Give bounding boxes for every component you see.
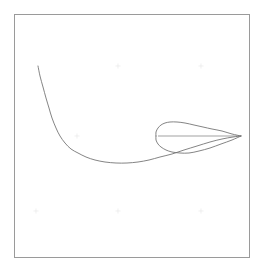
airfoil-lower-surface	[156, 136, 241, 153]
tick-mark	[34, 209, 39, 214]
data-series-layer	[38, 66, 241, 163]
tick-mark	[116, 64, 121, 69]
tick-mark	[116, 209, 121, 214]
separation-streamline	[38, 66, 241, 163]
airfoil-upper-surface	[156, 122, 241, 136]
tick-mark	[199, 209, 204, 214]
tick-mark-layer	[34, 64, 204, 214]
tick-mark	[75, 134, 80, 139]
tick-mark	[199, 64, 204, 69]
airfoil-streamline-plot	[0, 0, 268, 275]
figure-root	[0, 0, 268, 275]
